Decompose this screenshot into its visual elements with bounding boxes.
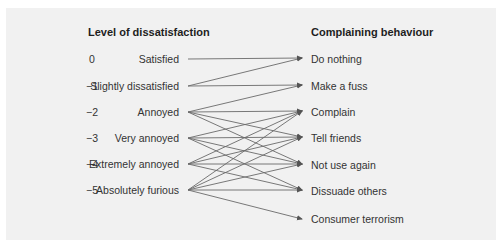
connection-arrow xyxy=(188,85,302,86)
connection-arrow xyxy=(188,111,302,190)
connection-arrow xyxy=(188,111,302,138)
connection-arrow xyxy=(188,190,302,219)
connection-arrow xyxy=(188,85,302,112)
connection-arrow xyxy=(188,58,302,86)
connection-arrow xyxy=(188,58,302,59)
connection-arrow xyxy=(188,111,302,112)
connection-arrows xyxy=(0,0,502,247)
